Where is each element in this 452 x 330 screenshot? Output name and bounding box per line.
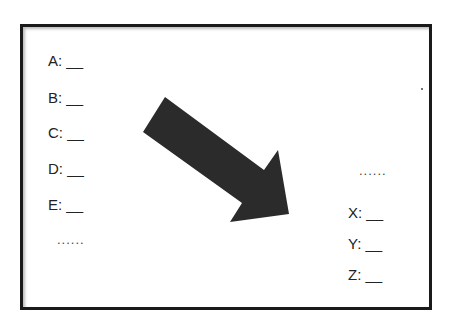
- arrow-down-right-icon: [0, 0, 452, 330]
